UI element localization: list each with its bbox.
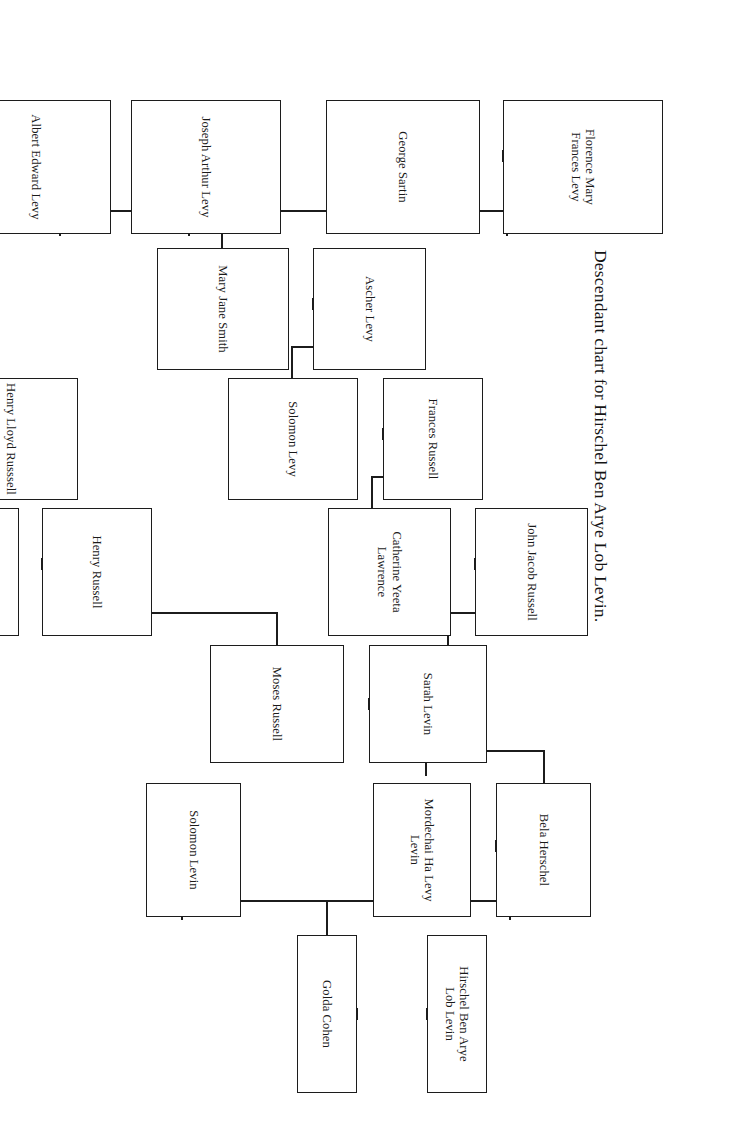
node-catherine-yeeta-lawrence: Catherine Yeeta Lawrence: [328, 508, 451, 636]
node-mordechai-ha-levy-levin: Mordechai Ha Levy Levin: [373, 783, 471, 917]
node-florence-mary-frances-levy: Florence Mary Frances Levy: [503, 100, 663, 234]
marriage-link-sarah-moses: [343, 698, 369, 710]
node-bela-herschel: Bela Herschel: [496, 783, 591, 917]
node-henry-lloyd-russsell: Henry Lloyd Russsell: [0, 378, 78, 500]
node-isabella-lloyd: Isabella Lloyd: [0, 508, 19, 636]
marriage-link-frances-solomon: [357, 428, 383, 440]
connector-golda-stub: [327, 900, 329, 936]
node-solomon-levin: Solomon Levin: [146, 783, 241, 917]
node-henry-russell: Henry Russell: [42, 508, 152, 636]
descendant-chart: Descendant chart for Hirschel Ben Arye L…: [0, 0, 748, 1137]
chart-caption: Descendant chart for Hirschel Ben Arye L…: [590, 250, 611, 622]
node-albert-edward-levy: Albert Edward Levy: [0, 100, 111, 234]
marriage-link-bela-mordechai: [470, 840, 496, 852]
node-golda-cohen: Golda Cohen: [297, 935, 357, 1093]
node-ascher-levy: Ascher Levy: [313, 248, 426, 370]
node-mary-jane-smith: Mary Jane Smith: [157, 248, 289, 370]
node-moses-russell: Moses Russell: [210, 645, 344, 763]
connector-moses-stub: [277, 612, 279, 648]
marriage-link-john-catherine: [450, 558, 475, 570]
scanned-page: Descendant chart for Hirschel Ben Arye L…: [0, 0, 748, 1137]
node-sarah-levin: Sarah Levin: [369, 645, 487, 763]
marriage-link-ascher-mary: [288, 298, 313, 310]
marriage-link-henry-isabella: [18, 558, 42, 570]
node-frances-russell: Frances Russell: [383, 378, 483, 500]
marriage-link-hirschel-golda: [357, 1008, 427, 1020]
marriage-link-florence-george: [479, 150, 503, 162]
node-hirschel-ben-arye-lob-levin: Hirschel Ben Arye Lob Levin: [427, 935, 487, 1093]
node-joseph-arthur-levy: Joseph Arthur Levy: [131, 100, 281, 234]
node-george-sartin: George Sartin: [326, 100, 480, 234]
node-john-jacob-russell: John Jacob Russell: [475, 508, 588, 636]
node-solomon-levy: Solomon Levy: [228, 378, 358, 500]
connector-catherine-stub: [372, 476, 374, 510]
connector-solomonlevy-stub: [292, 346, 294, 380]
connector-bela-stub: [544, 750, 546, 786]
